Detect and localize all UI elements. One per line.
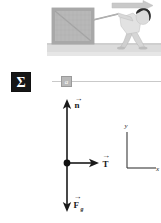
normal-force-vector (63, 99, 71, 163)
n-label-text: n (75, 100, 80, 110)
t-label-text: T (103, 159, 109, 169)
y-axis-label: y (124, 122, 129, 130)
tension-force-vector (67, 159, 99, 167)
x-axis-label: x (155, 165, 160, 173)
normal-force-label: → n (75, 94, 83, 111)
origin-point (64, 160, 71, 167)
screenshot-root: Σ a → n (0, 0, 161, 223)
slider-handle-a[interactable]: a (61, 76, 72, 87)
coordinate-axes: y x (124, 122, 161, 173)
fg-label-text: F (74, 200, 80, 210)
acceleration-slider[interactable]: a (52, 74, 161, 90)
free-body-diagram: → n → T → F g y x (0, 92, 161, 223)
sigma-button[interactable]: Σ (11, 72, 31, 92)
tension-force-label: → T (102, 151, 110, 169)
wooden-crate (52, 8, 94, 44)
gravity-force-label: → F g (74, 192, 84, 212)
illustration-panel (0, 0, 161, 62)
fg-subscript: g (80, 206, 84, 212)
gravity-force-vector (63, 163, 71, 212)
